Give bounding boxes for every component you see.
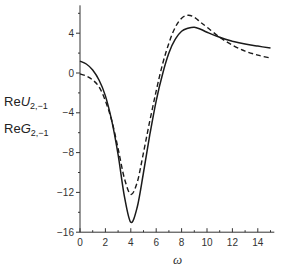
y-tick-label: 0: [68, 68, 74, 79]
x-tick-label: 8: [179, 237, 185, 248]
series-reu-solid-line: [80, 27, 271, 222]
ylabel-var: U: [21, 94, 30, 109]
x-tick-label: 6: [153, 237, 159, 248]
x-axis-label: ω: [173, 252, 182, 268]
y-tick-label: 4: [68, 28, 74, 39]
ylabel-var: G: [21, 121, 31, 136]
y-tick-label: −12: [57, 187, 74, 198]
y-tick-label: −4: [63, 107, 75, 118]
x-tick-label: 4: [128, 237, 134, 248]
y-tick-label: −8: [63, 147, 75, 158]
tick-labels: 40−4−8−12−1602468101214: [57, 28, 264, 249]
y-axis-label-reu: ReU2,−1: [4, 95, 48, 111]
y-tick-label: −16: [57, 227, 74, 238]
ylabel-sub: 2,−1: [30, 101, 48, 111]
x-tick-label: 10: [201, 237, 213, 248]
x-tick-label: 2: [103, 237, 109, 248]
axes: [80, 5, 274, 232]
ylabel-prefix: Re: [4, 94, 21, 109]
ylabel-prefix: Re: [4, 121, 21, 136]
x-tick-label: 0: [77, 237, 83, 248]
tick-marks: [76, 13, 271, 232]
y-axis-label-reg: ReG2,−1: [4, 122, 49, 138]
x-tick-label: 14: [252, 237, 264, 248]
ylabel-sub: 2,−1: [31, 128, 49, 138]
x-tick-label: 12: [227, 237, 239, 248]
line-chart: 40−4−8−12−1602468101214: [0, 0, 285, 276]
